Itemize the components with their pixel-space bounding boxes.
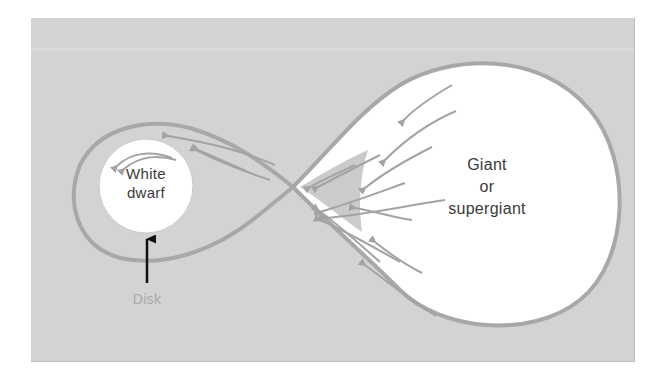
white-dwarf-label-line1: White [106, 164, 186, 183]
giant-label: Giant or supergiant [432, 154, 542, 220]
giant-label-line2: or [432, 176, 542, 198]
giant-label-line1: Giant [432, 154, 542, 176]
disk-label: Disk [124, 290, 170, 309]
roche-lobe-diagram [0, 0, 654, 383]
white-dwarf-label-line2: dwarf [106, 183, 186, 202]
giant-label-line3: supergiant [432, 198, 542, 220]
white-dwarf-label: White dwarf [106, 164, 186, 202]
